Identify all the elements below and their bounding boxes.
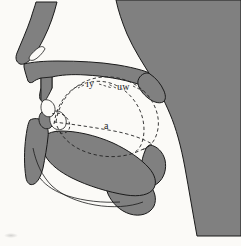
vocal-tract-figure: iy uw a xyxy=(0,0,241,246)
vocal-tract-diagram xyxy=(0,0,241,246)
vowel-label-uw: uw xyxy=(117,82,130,92)
scan-artifact-smudge xyxy=(4,233,18,238)
vowel-label-a: a xyxy=(104,121,109,131)
vowel-label-iy: iy xyxy=(86,79,94,89)
